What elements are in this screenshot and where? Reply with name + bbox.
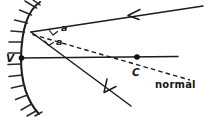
angle-incidence-label: a (61, 22, 67, 33)
principal-axis (20, 57, 178, 59)
vertex-label: V (6, 52, 15, 64)
vertex-point (19, 55, 25, 61)
angle-reflection-label: a (56, 36, 62, 47)
incident-ray (31, 6, 203, 32)
mirror-reflection-diagram: V C a a normal (0, 0, 209, 117)
diagram-canvas: V C a a normal (0, 0, 209, 117)
center-label: C (132, 66, 140, 78)
center-of-curvature-point (134, 54, 140, 60)
normal-label: normal (155, 79, 196, 90)
